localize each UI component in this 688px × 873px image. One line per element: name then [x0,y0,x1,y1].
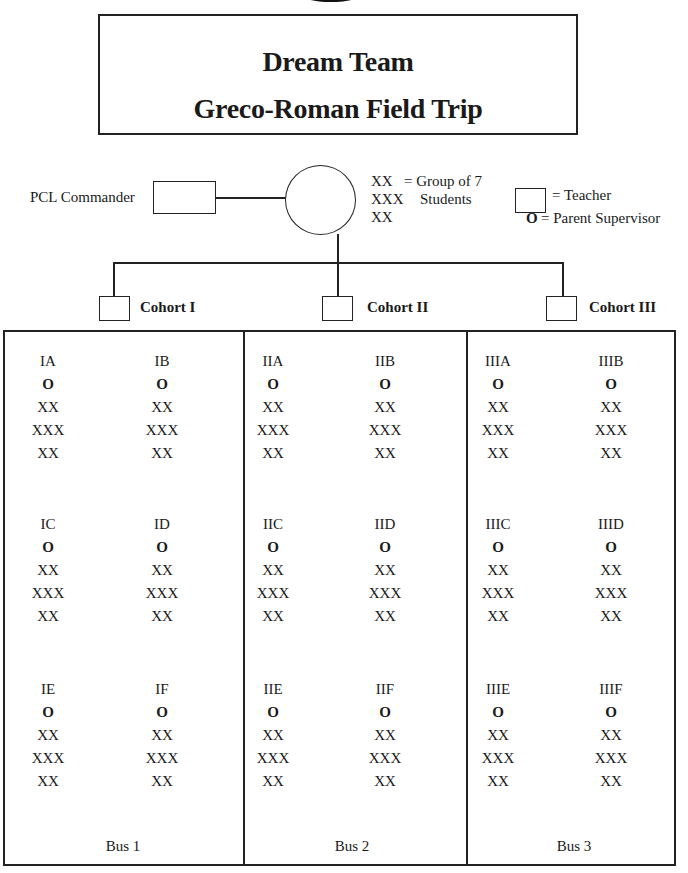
student-row: XX [132,559,192,582]
student-row: XXX [243,747,303,770]
group-name: IIB [355,350,415,373]
student-row: XX [581,605,641,628]
student-row: XX [243,396,303,419]
student-row: XX [132,605,192,628]
group-name: IIID [581,513,641,536]
cohort-3-label: Cohort III [589,299,656,316]
group-IIIB: IIIB O XX XXX XX [581,350,641,465]
student-row: XXX [132,747,192,770]
student-row: XX [243,559,303,582]
student-row: XX [132,442,192,465]
student-row: XX [132,724,192,747]
student-row: XXX [581,582,641,605]
student-row: XX [581,724,641,747]
student-row: XX [355,770,415,793]
group-name: IIF [355,678,415,701]
student-row: XXX [581,419,641,442]
parent-supervisor: O [468,701,528,724]
student-row: XX [18,442,78,465]
student-row: XX [18,396,78,419]
group-IIIE: IIIE O XX XXX XX [468,678,528,793]
cropped-decoration [300,0,362,2]
group-IC: IC O XX XXX XX [18,513,78,628]
commander-label: PCL Commander [30,189,135,206]
group-IIE: IIE O XX XXX XX [243,678,303,793]
student-row: XX [468,605,528,628]
parent-supervisor: O [18,536,78,559]
parent-supervisor: O [581,701,641,724]
legend-teacher: = Teacher [552,187,611,204]
student-row: XX [581,559,641,582]
group-IA: IA O XX XXX XX [18,350,78,465]
parent-supervisor: O [355,536,415,559]
legend-xx: XX [371,173,393,190]
group-name: ID [132,513,192,536]
group-name: IIE [243,678,303,701]
parent-supervisor: O [355,373,415,396]
student-row: XX [355,605,415,628]
student-row: XX [468,559,528,582]
branch-line [113,262,563,264]
student-row: XX [468,396,528,419]
group-name: IB [132,350,192,373]
student-row: XX [132,770,192,793]
group-name: IIIB [581,350,641,373]
student-row: XXX [355,747,415,770]
student-row: XXX [132,582,192,605]
group-name: IF [132,678,192,701]
group-IIB: IIB O XX XXX XX [355,350,415,465]
student-row: XXX [18,582,78,605]
group-IIIC: IIIC O XX XXX XX [468,513,528,628]
student-row: XXX [18,747,78,770]
student-row: XX [243,724,303,747]
parent-supervisor: O [355,701,415,724]
cohort-2-label: Cohort II [367,299,428,316]
branch-cohort-3 [562,262,564,297]
group-name: IC [18,513,78,536]
group-IB: IB O XX XXX XX [132,350,192,465]
student-row: XX [581,442,641,465]
student-row: XXX [355,582,415,605]
student-row: XX [581,396,641,419]
group-name: IA [18,350,78,373]
group-IIF: IIF O XX XXX XX [355,678,415,793]
group-name: IIA [243,350,303,373]
group-IIIA: IIIA O XX XXX XX [468,350,528,465]
student-row: XXX [468,419,528,442]
group-name: IIIE [468,678,528,701]
student-row: XX [355,724,415,747]
group-IIID: IIID O XX XXX XX [581,513,641,628]
group-IE: IE O XX XXX XX [18,678,78,793]
group-IIC: IIC O XX XXX XX [243,513,303,628]
group-IID: IID O XX XXX XX [355,513,415,628]
legend-xxx: XXX [371,191,404,208]
parent-supervisor: O [18,373,78,396]
group-name: IIIF [581,678,641,701]
title-line-1: Dream Team [100,48,576,76]
bus-1-label: Bus 1 [73,838,173,855]
student-row: XXX [243,582,303,605]
student-row: XXX [468,582,528,605]
legend-xx-2: XX [371,209,393,226]
cohort-1-teacher [99,296,130,321]
student-row: XXX [18,419,78,442]
student-row: XXX [355,419,415,442]
group-name: IE [18,678,78,701]
legend-students: Students [420,191,472,208]
bus-2-label: Bus 2 [302,838,402,855]
cohort-2-teacher [322,296,353,321]
parent-supervisor: O [581,373,641,396]
student-row: XX [18,770,78,793]
parent-supervisor: O [132,373,192,396]
group-name: IIC [243,513,303,536]
cohort-1-label: Cohort I [140,299,195,316]
student-row: XXX [468,747,528,770]
student-row: XX [355,396,415,419]
title-box: Dream Team Greco-Roman Field Trip [98,14,578,135]
parent-supervisor: O [468,373,528,396]
student-group-circle [285,165,356,235]
student-row: XX [18,559,78,582]
legend-parent: = Parent Supervisor [541,210,660,227]
parent-supervisor: O [243,701,303,724]
parent-supervisor: O [132,701,192,724]
